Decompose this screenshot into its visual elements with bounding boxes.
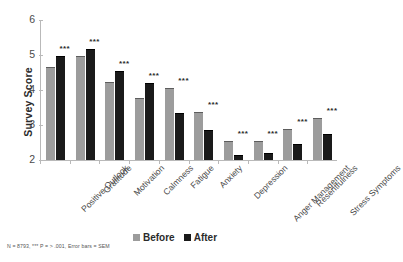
x-tick — [307, 160, 308, 164]
legend-item: After — [184, 232, 217, 243]
x-tick — [70, 160, 71, 164]
error-bar — [165, 88, 174, 89]
significance-marker: *** — [143, 72, 165, 80]
legend-label: After — [194, 232, 217, 243]
significance-marker: *** — [84, 38, 106, 46]
bar-group: *** — [134, 20, 154, 160]
bar-before — [76, 56, 85, 160]
error-bar — [46, 67, 55, 68]
bar-group: *** — [45, 20, 65, 160]
bar-before — [283, 129, 292, 160]
x-tick — [218, 160, 219, 164]
bar-before — [224, 141, 233, 160]
bar-group: *** — [164, 20, 184, 160]
legend-item: Before — [133, 232, 175, 243]
significance-marker: *** — [232, 130, 254, 138]
error-bar — [175, 113, 184, 114]
significance-marker: *** — [291, 118, 313, 126]
significance-marker: *** — [54, 45, 76, 53]
significance-marker: *** — [202, 101, 224, 109]
bar-after — [145, 83, 154, 160]
y-tick-label: 6 — [29, 13, 35, 25]
chart-legend: BeforeAfter — [133, 232, 217, 243]
category-label: Anxiety — [218, 163, 245, 190]
plot-area: 23456 ****************************** — [40, 20, 337, 160]
category-label: Depression — [252, 163, 290, 201]
bar-group: *** — [104, 20, 124, 160]
error-bar — [105, 82, 114, 83]
x-tick — [99, 160, 100, 164]
significance-marker: *** — [321, 107, 343, 115]
error-bar — [254, 141, 263, 142]
bar-before — [46, 67, 55, 160]
significance-marker: *** — [262, 130, 284, 138]
bar-before — [313, 118, 322, 160]
significance-marker: *** — [173, 77, 195, 85]
y-tick-label: 4 — [29, 83, 35, 95]
error-bar — [224, 141, 233, 142]
x-tick — [248, 160, 249, 164]
bar-after — [86, 49, 95, 160]
bar-group: *** — [282, 20, 302, 160]
bar-before — [105, 82, 114, 160]
bar-group: *** — [193, 20, 213, 160]
bar-group: *** — [223, 20, 243, 160]
bar-before — [194, 112, 203, 160]
category-label: Motivation — [132, 163, 167, 198]
error-bar — [145, 83, 154, 84]
bar-after — [234, 155, 243, 160]
error-bar — [115, 71, 124, 72]
error-bar — [204, 130, 213, 131]
error-bar — [194, 112, 203, 113]
bar-group: *** — [253, 20, 273, 160]
bar-after — [293, 144, 302, 160]
error-bar — [234, 155, 243, 156]
bar-before — [165, 88, 174, 160]
bar-after — [323, 134, 332, 160]
bar-after — [204, 130, 213, 160]
y-tick-label: 3 — [29, 118, 35, 130]
y-axis-title: Survey Score — [22, 47, 34, 157]
error-bar — [76, 56, 85, 57]
error-bar — [283, 129, 292, 130]
bar-before — [135, 98, 144, 160]
bar-after — [175, 113, 184, 160]
significance-marker: *** — [113, 60, 135, 68]
error-bar — [135, 98, 144, 99]
y-tick — [39, 125, 43, 126]
legend-swatch — [184, 234, 191, 241]
bar-before — [254, 141, 263, 160]
y-tick-label: 2 — [29, 153, 35, 165]
y-tick-label: 5 — [29, 48, 35, 60]
bar-after — [115, 71, 124, 160]
bar-after — [56, 56, 65, 160]
error-bar — [323, 134, 332, 135]
x-tick — [129, 160, 130, 164]
y-tick — [39, 90, 43, 91]
bar-after — [264, 153, 273, 160]
error-bar — [264, 153, 273, 154]
y-tick — [39, 55, 43, 56]
bar-group: *** — [75, 20, 95, 160]
error-bar — [86, 49, 95, 50]
bar-group: *** — [312, 20, 332, 160]
chart-footnote: N = 8793, *** P = > .001, Error bars = S… — [7, 243, 110, 249]
y-tick — [39, 20, 43, 21]
legend-swatch — [133, 234, 140, 241]
error-bar — [313, 118, 322, 119]
error-bar — [56, 56, 65, 57]
legend-label: Before — [143, 232, 175, 243]
x-tick — [278, 160, 279, 164]
x-tick — [40, 160, 41, 164]
error-bar — [293, 144, 302, 145]
